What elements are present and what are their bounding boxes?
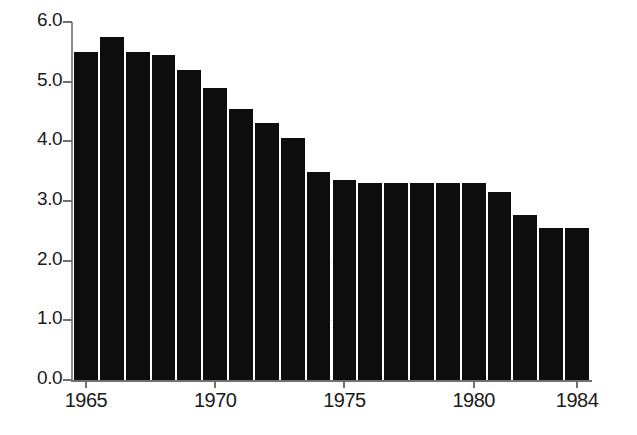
bar	[512, 215, 538, 380]
x-axis-tick-label: 1984	[556, 389, 599, 411]
y-axis-tick-mark	[63, 200, 72, 202]
x-axis-tick-mark	[85, 381, 87, 388]
y-axis-tick-mark	[63, 140, 72, 142]
bar-chart: 0.01.02.03.04.05.06.0 196519701975198019…	[0, 0, 637, 435]
x-axis-tick-mark	[473, 381, 475, 388]
bar	[409, 183, 435, 380]
bar	[202, 88, 228, 380]
bar	[125, 52, 151, 380]
y-axis-tick-label: 0.0	[37, 368, 62, 387]
y-axis-tick-label: 4.0	[37, 129, 62, 148]
y-axis-tick-label: 1.0	[37, 308, 62, 327]
bar	[487, 192, 513, 380]
bar	[435, 183, 461, 380]
x-axis-tick-label: 1965	[65, 389, 108, 411]
y-axis-tick-mark	[63, 379, 72, 381]
bar	[280, 138, 306, 380]
x-axis-tick-mark	[343, 381, 345, 388]
x-axis-tick-label: 1980	[452, 389, 495, 411]
bar	[99, 37, 125, 380]
y-axis-tick-mark	[63, 260, 72, 262]
bar	[254, 123, 280, 380]
bar	[538, 228, 564, 380]
bar	[332, 180, 358, 380]
bar	[228, 109, 254, 380]
plot-area: 0.01.02.03.04.05.06.0 196519701975198019…	[0, 0, 637, 435]
bar	[357, 183, 383, 380]
x-axis-line	[71, 380, 592, 382]
x-axis-tick-mark	[214, 381, 216, 388]
bar	[151, 55, 177, 380]
bar	[73, 52, 99, 380]
bar	[383, 183, 409, 380]
x-axis-tick-label: 1975	[323, 389, 366, 411]
y-axis-tick-mark	[63, 319, 72, 321]
bar	[564, 228, 590, 380]
y-axis-tick-label: 2.0	[37, 249, 62, 268]
bar	[306, 172, 332, 380]
y-axis-tick-label: 3.0	[37, 189, 62, 208]
bar	[461, 183, 487, 380]
bar	[176, 70, 202, 380]
y-axis-tick-mark	[63, 81, 72, 83]
x-axis-tick-mark	[576, 381, 578, 388]
y-axis-tick-mark	[63, 21, 72, 23]
y-axis-tick-label: 5.0	[37, 70, 62, 89]
x-axis-tick-label: 1970	[194, 389, 237, 411]
y-axis-tick-label: 6.0	[37, 10, 62, 29]
